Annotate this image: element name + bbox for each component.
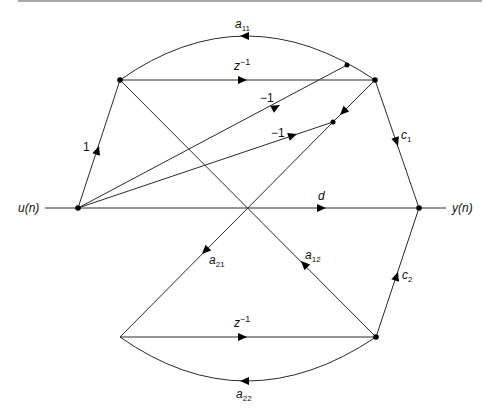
node-y: [416, 205, 422, 211]
arrow-a22-icon: [240, 377, 249, 385]
edge-a21: [120, 122, 333, 337]
node-x1-out: [372, 77, 378, 83]
label-a22: a22: [236, 387, 252, 403]
label-c2: c2: [402, 268, 413, 284]
label-a21: a21: [209, 253, 225, 269]
arrow-d-icon: [317, 204, 326, 212]
label-one: 1: [83, 140, 90, 154]
edge-c2: [376, 208, 419, 337]
label-neg1-upper: −1: [260, 91, 274, 105]
edge-a22: [120, 337, 376, 381]
label-neg1-lower: −1: [271, 126, 285, 140]
node-u: [75, 205, 81, 211]
node-s2: [331, 120, 336, 125]
label-u: u(n): [18, 201, 39, 215]
arrow-c1-icon: [391, 136, 399, 146]
label-d: d: [318, 189, 325, 203]
arrow-c2-icon: [391, 272, 399, 282]
node-s1: [345, 63, 350, 68]
label-y: y(n): [451, 201, 473, 215]
arrow-z2-icon: [238, 333, 247, 341]
label-a11: a11: [235, 17, 251, 33]
edge-x1-to-s2: [333, 80, 375, 122]
label-c1: c1: [401, 128, 412, 144]
label-a12: a12: [305, 248, 321, 264]
label-z-bot: z−1: [233, 314, 250, 330]
arrow-u-x1-icon: [92, 146, 100, 156]
arrow-neg1-lower-icon: [287, 133, 297, 141]
arrow-neg1-upper-icon: [270, 105, 280, 113]
arrow-a11-icon: [240, 32, 249, 40]
signal-flow-graph: u(n) y(n) 1 −1 −1 z−1 z−1 a11 a22 a21 a1…: [0, 0, 490, 417]
node-x1-in: [117, 77, 123, 83]
node-x2-out: [373, 334, 379, 340]
arrow-a12-icon: [301, 261, 310, 270]
arrow-z1-icon: [238, 76, 247, 84]
label-z-top: z−1: [233, 57, 250, 73]
